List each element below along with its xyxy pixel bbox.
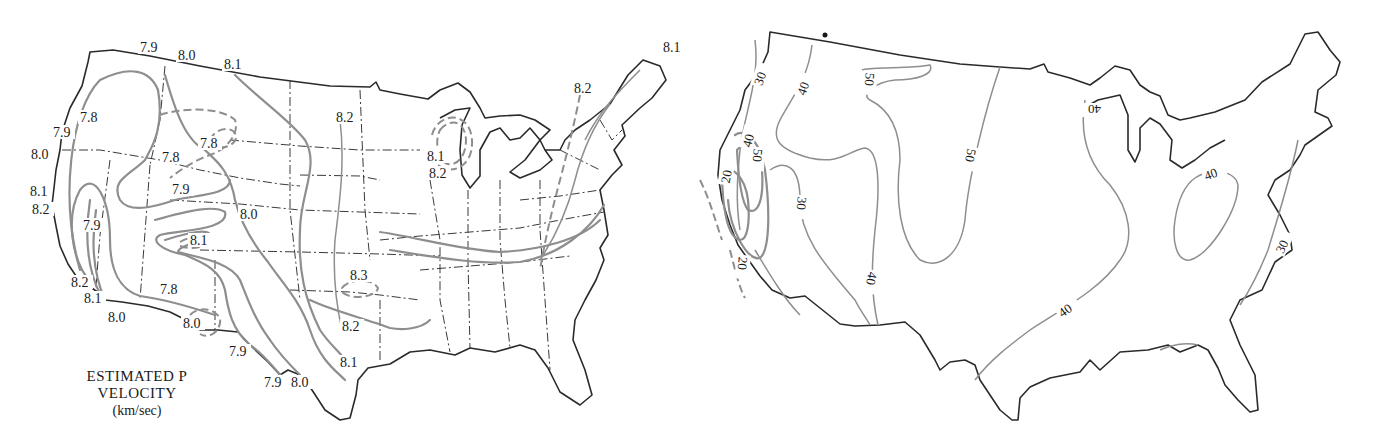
contour-label: 50	[962, 148, 979, 163]
contour-label: 8.1	[84, 291, 102, 306]
right-us-outline	[718, 32, 1340, 420]
left-map-p-velocity: 7.98.08.17.87.98.07.87.87.98.08.18.27.98…	[28, 40, 685, 420]
contour-label: 20	[718, 169, 735, 184]
contour-label: 7.9	[53, 125, 71, 140]
contour-label: 8.0	[240, 207, 258, 222]
contour-label: 7.8	[162, 150, 180, 165]
contour-label: 7.9	[172, 182, 190, 197]
contour-label: 8.2	[336, 110, 354, 125]
contour-label: 8.1	[663, 40, 681, 55]
contour-label: 7.9	[140, 40, 158, 55]
contour-label: 8.2	[32, 202, 50, 217]
contour-label: 8.3	[350, 268, 368, 283]
contour-label: 8.2	[71, 275, 89, 290]
location-dot-marker	[823, 33, 828, 38]
contour-label: 50	[862, 72, 878, 86]
contour-label: 7.8	[200, 136, 218, 151]
contour-label: 8.0	[291, 375, 309, 390]
contour-label: 8.0	[183, 316, 201, 331]
legend-units: (km/sec)	[62, 402, 212, 419]
right-map-crustal-thickness: 3040504050203050404020404030	[700, 32, 1340, 420]
contour-label: 7.9	[264, 375, 282, 390]
contour-label: 7.9	[83, 218, 101, 233]
contour-label: 8.1	[224, 57, 242, 72]
contour-label: 8.1	[190, 233, 208, 248]
contour-label: 8.2	[429, 166, 447, 181]
contour-label: 20	[735, 256, 751, 270]
contour-label: 8.1	[427, 149, 445, 164]
contour-label: 50	[750, 148, 766, 162]
contour-label: 8.0	[178, 48, 196, 63]
contour-label: 8.1	[340, 355, 358, 370]
contour-label: 8.0	[108, 310, 126, 325]
contour-label: 7.9	[229, 344, 247, 359]
legend-title-line1: ESTIMATED P	[62, 368, 212, 385]
map-legend: ESTIMATED P VELOCITY (km/sec)	[62, 368, 212, 419]
contour-label: 7.8	[160, 282, 178, 297]
legend-title-line2: VELOCITY	[62, 385, 212, 402]
contour-label: 40	[863, 271, 880, 286]
contour-label: 40	[1088, 102, 1101, 117]
contour-label: 30	[794, 196, 810, 210]
right-thickness-contours	[700, 40, 1298, 380]
contour-label: 7.8	[80, 110, 98, 125]
right-contour-labels: 3040504050203050404020404030	[717, 61, 1294, 320]
contour-label: 8.2	[574, 81, 592, 96]
contour-label: 8.2	[342, 319, 360, 334]
contour-label: 8.0	[31, 147, 49, 162]
contour-label: 8.1	[30, 184, 48, 199]
